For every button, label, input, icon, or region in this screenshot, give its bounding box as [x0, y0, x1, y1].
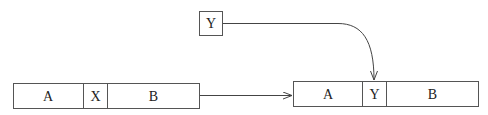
after-segment-y: Y — [369, 87, 379, 102]
insert-box-y: Y — [200, 12, 223, 36]
insert-box-label: Y — [206, 16, 216, 31]
after-bar: A Y B — [294, 82, 479, 107]
before-bar: A X B — [14, 84, 200, 109]
replacement-diagram: Y A X B A Y B — [0, 0, 488, 115]
after-segment-a: A — [323, 87, 334, 102]
before-segment-a: A — [43, 89, 54, 104]
before-segment-x: X — [90, 89, 100, 104]
insertion-arrow — [223, 24, 374, 81]
before-segment-b: B — [149, 89, 158, 104]
after-segment-b: B — [428, 87, 437, 102]
